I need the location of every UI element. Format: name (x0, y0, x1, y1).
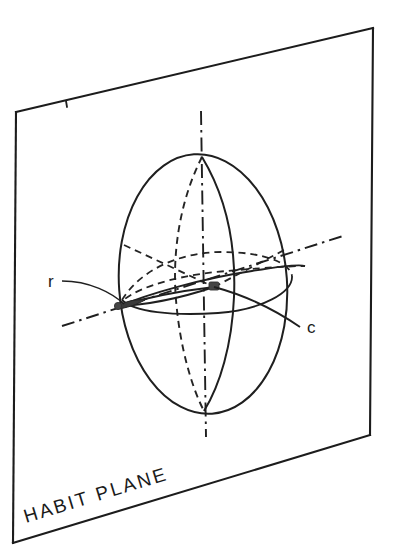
sphere-group (110, 148, 305, 419)
r-axis-label: r (48, 272, 54, 291)
contact-point-left (114, 302, 121, 309)
sphere-outline (110, 148, 296, 419)
equator-back-dashed (122, 252, 292, 300)
plane-edge-nick (66, 101, 67, 107)
plane-edge-left (13, 112, 16, 543)
habit-plane-diagram: r c HABIT PLANE (0, 0, 394, 557)
plane-edge-bottom (13, 435, 370, 543)
label-r-group: r (48, 272, 124, 304)
plane-edge-top (16, 28, 373, 112)
axes-group (62, 111, 343, 437)
figure-root: r c HABIT PLANE (0, 0, 394, 557)
plane-edge-right (370, 28, 373, 435)
c-axis-label: c (307, 318, 316, 337)
r-leader-line (62, 281, 124, 304)
